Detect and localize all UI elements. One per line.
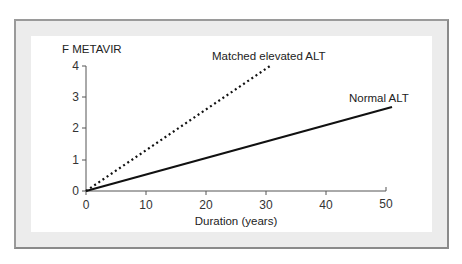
line-chart: 4 3 2 1 0 0 10 20 30 40 50 F METAVIR Dur… <box>0 0 462 264</box>
x-tick-0: 0 <box>83 198 90 212</box>
x-axis-label: Duration (years) <box>195 215 278 227</box>
series-normal-alt-line <box>86 107 392 191</box>
x-tick-50: 50 <box>379 197 393 211</box>
x-tick-40: 40 <box>319 198 333 212</box>
y-tick-3: 3 <box>72 90 79 104</box>
y-tick-0: 0 <box>72 184 79 198</box>
y-axis-label: F METAVIR <box>62 43 122 55</box>
y-ticks <box>82 66 86 191</box>
y-tick-4: 4 <box>72 59 79 73</box>
x-tick-20: 20 <box>199 198 213 212</box>
x-tick-10: 10 <box>139 198 153 212</box>
x-tick-30: 30 <box>259 198 273 212</box>
label-elevated-alt: Matched elevated ALT <box>212 50 326 62</box>
y-tick-2: 2 <box>72 121 79 135</box>
series-elevated-alt-line <box>86 66 270 191</box>
label-normal-alt: Normal ALT <box>349 92 409 104</box>
y-tick-1: 1 <box>72 153 79 167</box>
